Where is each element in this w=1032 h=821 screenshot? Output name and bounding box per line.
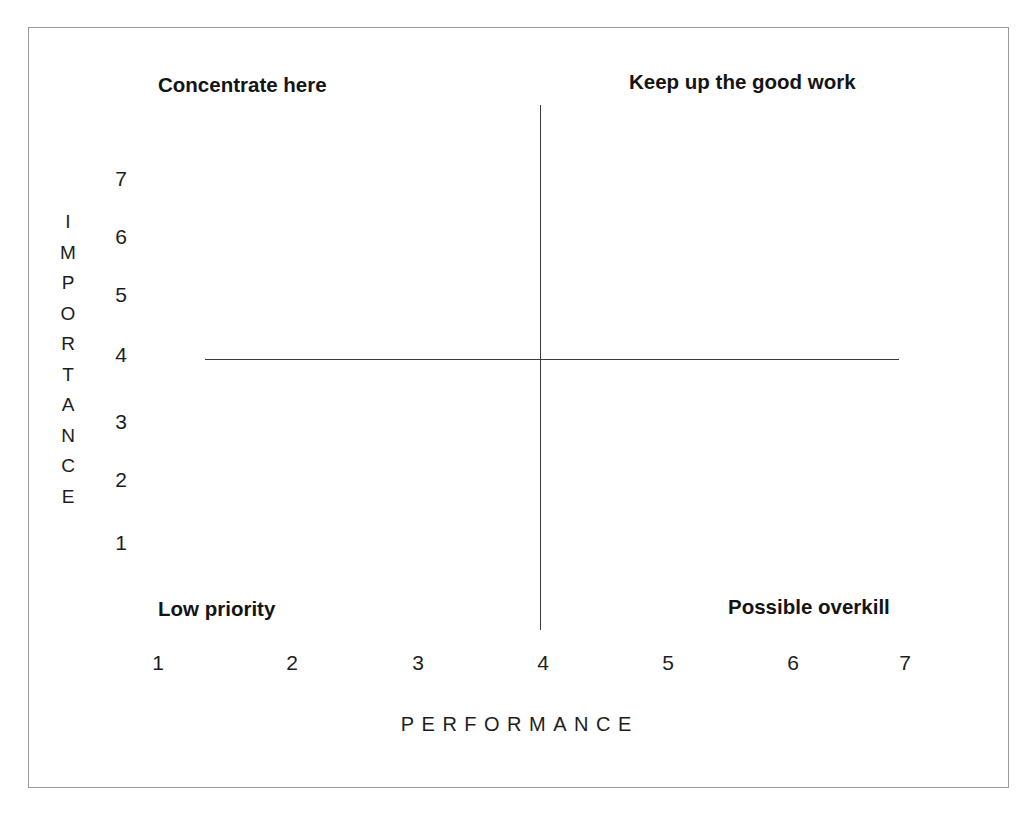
- y-axis-title-letter: E: [55, 482, 81, 513]
- x-axis-tick-6: 6: [773, 651, 813, 675]
- horizontal-divider-line: [205, 359, 899, 360]
- y-axis-title-letter: C: [55, 451, 81, 482]
- chart-canvas: Concentrate here Keep up the good work L…: [0, 0, 1032, 821]
- x-axis-tick-7: 7: [885, 651, 925, 675]
- quadrant-label-low-priority: Low priority: [158, 597, 275, 621]
- y-axis-title-letter: A: [55, 390, 81, 421]
- y-axis-title-letter: O: [55, 299, 81, 330]
- y-axis-tick-5: 5: [104, 283, 138, 307]
- y-axis-title-letter: T: [55, 360, 81, 391]
- y-axis-title-letter: R: [55, 329, 81, 360]
- quadrant-label-keep-up-the-good-work: Keep up the good work: [629, 70, 856, 94]
- vertical-divider-line: [540, 105, 541, 630]
- quadrant-label-possible-overkill: Possible overkill: [728, 595, 890, 619]
- y-axis-tick-4: 4: [104, 343, 138, 367]
- y-axis-title-letter: P: [55, 268, 81, 299]
- x-axis-tick-2: 2: [272, 651, 312, 675]
- y-axis-tick-7: 7: [104, 167, 138, 191]
- y-axis-tick-2: 2: [104, 468, 138, 492]
- x-axis-tick-4: 4: [523, 651, 563, 675]
- x-axis-tick-3: 3: [398, 651, 438, 675]
- y-axis-title-letter: M: [55, 238, 81, 269]
- x-axis-tick-1: 1: [138, 651, 178, 675]
- y-axis-title: IMPORTANCE: [55, 207, 81, 512]
- x-axis-tick-5: 5: [648, 651, 688, 675]
- x-axis-title: PERFORMANCE: [0, 713, 1032, 736]
- y-axis-title-letter: N: [55, 421, 81, 452]
- y-axis-tick-1: 1: [104, 531, 138, 555]
- quadrant-label-concentrate-here: Concentrate here: [158, 73, 327, 97]
- y-axis-title-letter: I: [55, 207, 81, 238]
- y-axis-tick-3: 3: [104, 410, 138, 434]
- y-axis-tick-6: 6: [104, 225, 138, 249]
